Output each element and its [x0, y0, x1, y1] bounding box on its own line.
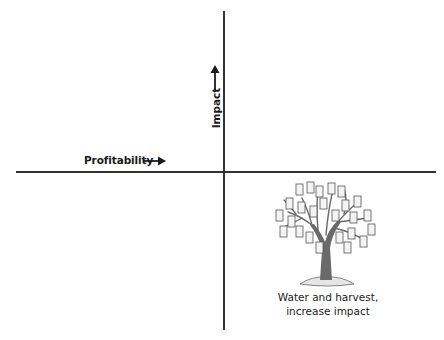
up-arrow-icon: [209, 64, 221, 90]
horizontal-axis: [16, 171, 436, 173]
quadrant-caption: Water and harvest, increase impact: [258, 290, 398, 318]
y-axis-label: Impact: [210, 86, 222, 130]
money-tree-icon: [272, 180, 380, 290]
caption-line: increase impact: [258, 304, 398, 318]
vertical-axis: [223, 11, 225, 330]
right-arrow-icon: [143, 155, 167, 167]
caption-line: Water and harvest,: [258, 290, 398, 304]
